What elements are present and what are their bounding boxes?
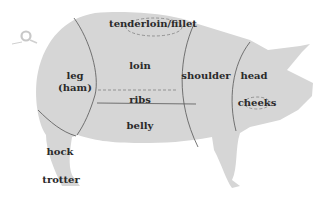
cut-label-cheeks: cheeks xyxy=(235,97,279,109)
cut-label-shoulder: shoulder xyxy=(176,70,236,82)
pig-diagram xyxy=(0,0,333,200)
cut-label-leg-alt: (ham) xyxy=(50,82,100,94)
cut-label-belly: belly xyxy=(118,120,162,132)
cut-label-ribs: ribs xyxy=(120,94,160,106)
cut-label-hock: hock xyxy=(40,146,80,158)
cut-label-head: head xyxy=(234,70,274,82)
cut-label-leg: leg (ham) xyxy=(50,70,100,94)
cut-label-loin: loin xyxy=(120,60,160,72)
cut-label-tenderloin: tenderloin/fillet xyxy=(94,18,212,30)
cut-label-leg-name: leg xyxy=(50,70,100,82)
cut-label-trotter: trotter xyxy=(36,174,86,186)
tail-icon xyxy=(12,32,37,45)
